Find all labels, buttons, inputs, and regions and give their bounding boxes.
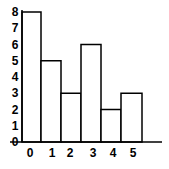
y-tick-label: 8 [12, 5, 19, 19]
x-tick-label: 1 [49, 146, 56, 160]
bar-1 [41, 61, 61, 142]
x-axis-ticks: 012345 [27, 146, 137, 160]
x-tick-label: 4 [110, 146, 117, 160]
y-tick-label: 1 [12, 119, 19, 133]
y-tick-label: 4 [12, 70, 19, 84]
bar-4 [101, 110, 121, 143]
y-axis-ticks: 012345678 [12, 5, 19, 149]
bar-5 [121, 93, 142, 142]
bar-chart: 012345678 012345 [0, 0, 169, 169]
bars [22, 12, 142, 142]
bar-0 [22, 12, 41, 142]
y-tick-label: 7 [12, 21, 19, 35]
x-tick-label: 5 [130, 146, 137, 160]
y-tick-label: 2 [12, 103, 19, 117]
x-tick-label: 0 [27, 146, 34, 160]
y-tick-label: 5 [12, 54, 19, 68]
x-tick-label: 2 [67, 146, 74, 160]
y-tick-label: 3 [12, 86, 19, 100]
x-tick-label: 3 [90, 146, 97, 160]
bar-3 [81, 45, 101, 143]
bar-2 [61, 93, 81, 142]
y-tick-label: 6 [12, 38, 19, 52]
